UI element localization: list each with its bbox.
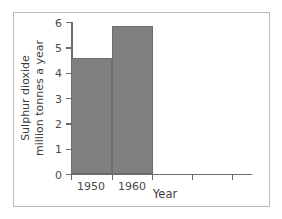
- y-axis-title: Sulphur dioxide million tonnes a year: [16, 18, 50, 178]
- chart-figure: 6 5 4 3 2 1 0 1950 1960: [0, 0, 282, 219]
- bar-1960: [112, 26, 153, 174]
- y-tick-label-3: 3: [55, 93, 62, 104]
- y-tick-label-5: 5: [55, 42, 62, 53]
- y-axis-title-line1: Sulphur dioxide: [19, 55, 33, 141]
- x-tick-extra-1: [192, 174, 193, 180]
- x-tick-start: [71, 174, 72, 180]
- x-axis-title: Year: [135, 189, 195, 201]
- x-tick-mid: [112, 174, 113, 180]
- x-axis-line: [71, 174, 252, 176]
- bar-1950: [71, 58, 112, 175]
- y-tick-label-6: 6: [55, 17, 62, 28]
- y-tick-5: 5: [66, 47, 72, 48]
- y-axis-title-line2: million tonnes a year: [33, 40, 47, 156]
- y-tick-label-4: 4: [55, 68, 62, 79]
- y-tick-label-1: 1: [55, 144, 62, 155]
- y-tick-label-2: 2: [55, 118, 62, 129]
- x-tick-1970: [152, 174, 153, 180]
- x-tick-label-1950: 1950: [77, 181, 105, 192]
- y-tick-6: 6: [66, 22, 72, 23]
- y-tick-label-0: 0: [55, 169, 62, 180]
- plot-area: 6 5 4 3 2 1 0 1950 1960: [0, 0, 282, 219]
- x-tick-extra-2: [232, 174, 233, 180]
